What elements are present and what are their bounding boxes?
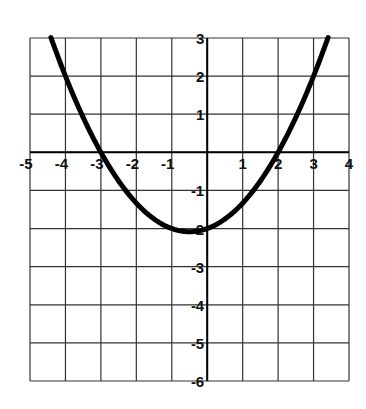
- y-tick-label: -4: [191, 297, 205, 314]
- y-tick-label: 3: [196, 30, 204, 47]
- x-tick-labels: -5-4-3-2-11234: [19, 155, 354, 172]
- y-tick-label: -6: [191, 373, 204, 390]
- x-tick-label: 1: [238, 155, 246, 172]
- y-tick-label: 1: [196, 106, 204, 123]
- x-tick-label: 3: [309, 155, 317, 172]
- axes: [30, 38, 349, 381]
- y-tick-label: 2: [196, 68, 204, 85]
- y-tick-label: -3: [191, 259, 204, 276]
- x-tick-label: -4: [55, 155, 69, 172]
- x-tick-label: -1: [161, 155, 174, 172]
- x-tick-label: 4: [345, 155, 354, 172]
- grid-lines: [30, 38, 349, 381]
- x-tick-label: -5: [19, 155, 32, 172]
- x-tick-label: -2: [126, 155, 139, 172]
- parabola-chart: -5-4-3-2-11234 321-1-2-3-4-5-6: [0, 0, 366, 409]
- y-tick-label: -5: [191, 335, 204, 352]
- parabola-curve: [51, 38, 328, 232]
- y-tick-labels: 321-1-2-3-4-5-6: [191, 30, 205, 390]
- y-tick-label: -1: [191, 182, 204, 199]
